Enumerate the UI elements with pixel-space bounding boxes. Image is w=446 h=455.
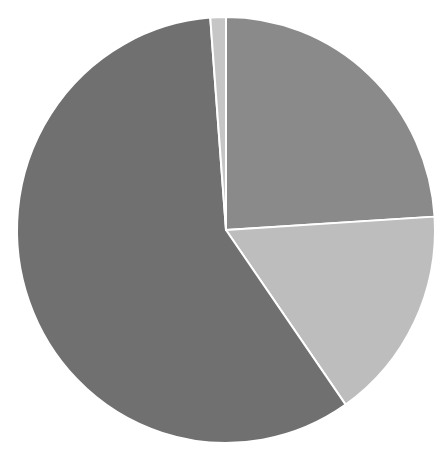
pie-slice-1 <box>226 17 435 230</box>
pie-chart <box>0 0 446 455</box>
